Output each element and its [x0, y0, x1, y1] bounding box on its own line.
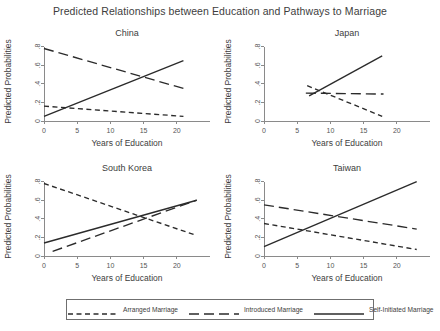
x-tick-label: 0 [262, 262, 266, 269]
series-line-self-initiated-marriage [44, 200, 197, 243]
x-tick-label: 5 [75, 127, 79, 134]
x-tick-label: 20 [393, 262, 401, 269]
y-tick-label: .2 [34, 99, 41, 105]
legend-entry-self-initiated-marriage: Self-Initiated Marriage [313, 300, 440, 319]
x-axis-title: Years of Education [91, 273, 162, 283]
panel-taiwan: Taiwan0.2.4.6.805101520Years of Educatio… [220, 159, 440, 294]
y-tick-label: .4 [34, 81, 41, 87]
x-tick-label: 15 [140, 127, 148, 134]
y-tick-label: .2 [254, 99, 261, 105]
x-tick-label: 0 [262, 127, 266, 134]
panel-title-taiwan: Taiwan [333, 163, 361, 173]
x-axis-title: Years of Education [311, 138, 382, 148]
y-axis-title: Predicted Probabilities [223, 39, 233, 124]
panel-title-japan: Japan [335, 28, 360, 38]
x-tick-label: 20 [173, 262, 181, 269]
x-tick-label: 15 [360, 127, 368, 134]
y-tick-label: .6 [34, 197, 41, 203]
y-tick-label: 0 [34, 254, 41, 258]
panel-title-china: China [115, 28, 139, 38]
y-tick-label: 0 [254, 254, 261, 258]
y-tick-label: .4 [254, 81, 261, 87]
y-tick-label: 0 [34, 119, 41, 123]
x-axis-title: Years of Education [311, 273, 382, 283]
legend-line-sample-arranged-marriage [67, 305, 119, 315]
panel-south-korea: South Korea0.2.4.6.805101520Years of Edu… [0, 159, 220, 294]
x-tick-label: 10 [107, 262, 115, 269]
x-tick-label: 20 [393, 127, 401, 134]
x-tick-label: 10 [107, 127, 115, 134]
series-line-introduced-marriage [306, 93, 384, 94]
series-line-self-initiated-marriage [309, 56, 382, 96]
legend-line-sample-introduced-marriage [188, 305, 240, 315]
y-tick-label: .6 [34, 62, 41, 68]
legend-entry-introduced-marriage: Introduced Marriage [188, 300, 313, 319]
x-tick-label: 15 [140, 262, 148, 269]
y-axis-title: Predicted Probabilities [3, 174, 13, 259]
y-axis-title: Predicted Probabilities [223, 174, 233, 259]
x-tick-label: 5 [75, 262, 79, 269]
x-tick-label: 20 [173, 127, 181, 134]
y-tick-label: .6 [254, 62, 261, 68]
series-line-self-initiated-marriage [44, 61, 183, 117]
y-tick-label: .4 [254, 216, 261, 222]
legend-line-sample-self-initiated-marriage [313, 305, 365, 315]
x-tick-label: 15 [360, 262, 368, 269]
series-line-introduced-marriage [53, 200, 197, 251]
y-tick-label: 0 [254, 119, 261, 123]
y-tick-label: .2 [34, 234, 41, 240]
y-tick-label: .2 [254, 234, 261, 240]
legend-entry-arranged-marriage: Arranged Marriage [67, 300, 188, 319]
panel-china: China0.2.4.6.805101520Years of Education… [0, 24, 220, 159]
figure-container: Predicted Relationships between Educatio… [0, 0, 440, 331]
legend-label-introduced-marriage: Introduced Marriage [240, 306, 313, 313]
y-tick-label: .8 [254, 44, 261, 50]
y-axis-title: Predicted Probabilities [3, 39, 13, 124]
x-tick-label: 0 [42, 127, 46, 134]
y-tick-label: .8 [34, 44, 41, 50]
x-tick-label: 5 [295, 127, 299, 134]
y-tick-label: .4 [34, 216, 41, 222]
y-tick-label: .6 [254, 197, 261, 203]
x-tick-label: 0 [42, 262, 46, 269]
page-title: Predicted Relationships between Educatio… [0, 5, 440, 17]
panel-title-south-korea: South Korea [102, 163, 152, 173]
series-line-arranged-marriage [44, 184, 197, 236]
x-tick-label: 10 [327, 127, 335, 134]
panel-japan: Japan0.2.4.6.805101520Years of Education… [220, 24, 440, 159]
x-tick-label: 5 [295, 262, 299, 269]
x-tick-label: 10 [327, 262, 335, 269]
legend-label-self-initiated-marriage: Self-Initiated Marriage [365, 306, 440, 313]
y-tick-label: .8 [34, 179, 41, 185]
x-axis-title: Years of Education [91, 138, 162, 148]
series-line-introduced-marriage [264, 205, 417, 229]
legend-label-arranged-marriage: Arranged Marriage [119, 306, 188, 313]
chart-legend: Arranged MarriageIntroduced MarriageSelf… [66, 299, 374, 320]
y-tick-label: .8 [254, 179, 261, 185]
